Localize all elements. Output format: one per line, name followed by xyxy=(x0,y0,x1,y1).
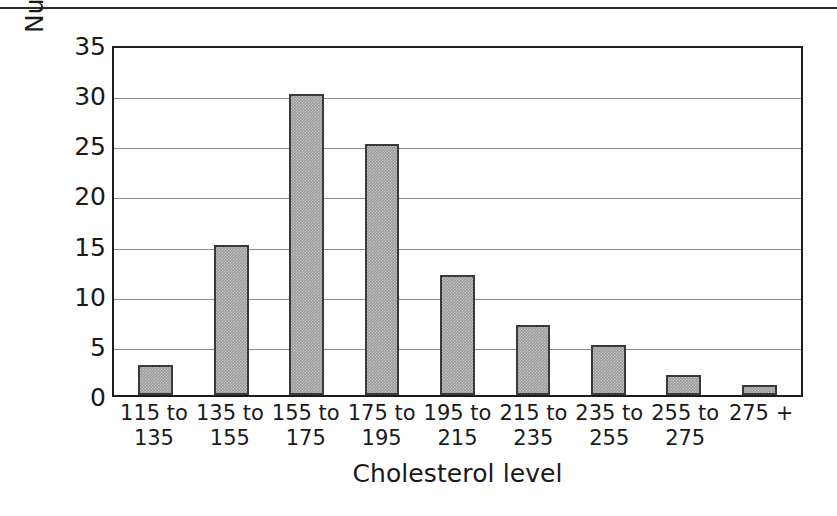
bar-slot xyxy=(722,48,797,395)
y-tick-label: 5 xyxy=(60,334,106,359)
x-axis-tick-labels: 115 to 135135 to 155155 to 175175 to 195… xyxy=(112,401,803,457)
y-tick-label: 0 xyxy=(60,385,106,410)
x-tick-label: 195 to 215 xyxy=(420,401,496,457)
x-tick-label: 255 to 275 xyxy=(647,401,723,457)
bar-slot xyxy=(193,48,268,395)
y-tick-label: 30 xyxy=(60,84,106,109)
y-tick-label: 10 xyxy=(60,284,106,309)
y-tick-label: 25 xyxy=(60,134,106,159)
y-tick-label: 35 xyxy=(60,34,106,59)
bar xyxy=(138,365,173,395)
y-axis-title: Number of subjects xyxy=(14,0,54,86)
bar xyxy=(365,144,400,395)
x-tick-label: 275 + xyxy=(723,401,799,457)
y-tick-label: 20 xyxy=(60,184,106,209)
bar xyxy=(742,385,777,395)
bar xyxy=(289,94,324,395)
histogram-figure: Number of subjects 35302520151050 115 to… xyxy=(0,0,837,516)
bar xyxy=(591,345,626,395)
bar-slot xyxy=(646,48,721,395)
bar-slot xyxy=(420,48,495,395)
x-tick-label: 115 to 135 xyxy=(116,401,192,457)
x-axis-title: Cholesterol level xyxy=(112,459,803,488)
plot-area xyxy=(112,46,803,397)
bar xyxy=(214,245,249,395)
y-axis-tick-labels: 35302520151050 xyxy=(58,46,106,397)
bar-slot xyxy=(344,48,419,395)
bar xyxy=(440,275,475,395)
bar xyxy=(516,325,551,395)
y-tick-label: 15 xyxy=(60,234,106,259)
page-top-rule xyxy=(0,7,837,9)
x-tick-label: 215 to 235 xyxy=(495,401,571,457)
bar-slot xyxy=(571,48,646,395)
x-tick-label: 155 to 175 xyxy=(268,401,344,457)
bar-slot xyxy=(269,48,344,395)
bar-series xyxy=(114,48,801,395)
x-tick-label: 175 to 195 xyxy=(344,401,420,457)
x-tick-label: 135 to 155 xyxy=(192,401,268,457)
bar-slot xyxy=(495,48,570,395)
x-tick-label: 235 to 255 xyxy=(571,401,647,457)
bar xyxy=(666,375,701,395)
bar-slot xyxy=(118,48,193,395)
